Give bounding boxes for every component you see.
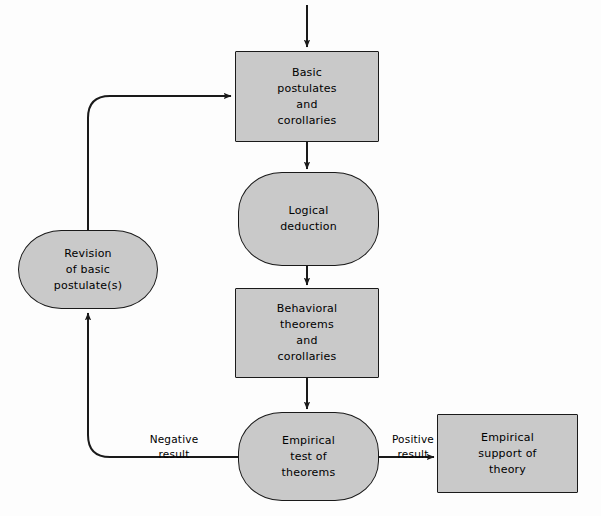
node-behavioral-theorems[interactable]: Behavioral theorems and corollaries (235, 288, 379, 378)
node-logical-deduction-label: Logical deduction (274, 203, 343, 235)
node-empirical-test[interactable]: Empirical test of theorems (238, 412, 379, 501)
node-revision-postulates[interactable]: Revision of basic postulate(s) (18, 230, 158, 309)
node-empirical-test-label: Empirical test of theorems (276, 433, 342, 481)
node-basic-postulates-label: Basic postulates and corollaries (271, 65, 342, 129)
edge-label-negative-result: Negative result (143, 432, 205, 462)
node-revision-postulates-label: Revision of basic postulate(s) (48, 246, 128, 294)
flowchart-canvas: Basic postulates and corollaries Logical… (0, 0, 601, 516)
node-empirical-support-label: Empirical support of theory (472, 430, 542, 478)
edge-label-positive-result: Positive result (384, 432, 442, 462)
node-empirical-support[interactable]: Empirical support of theory (437, 414, 578, 493)
connector-revision-to-postulates (88, 96, 231, 230)
node-behavioral-theorems-label: Behavioral theorems and corollaries (271, 301, 344, 365)
node-logical-deduction[interactable]: Logical deduction (238, 172, 379, 266)
node-basic-postulates[interactable]: Basic postulates and corollaries (235, 51, 379, 142)
